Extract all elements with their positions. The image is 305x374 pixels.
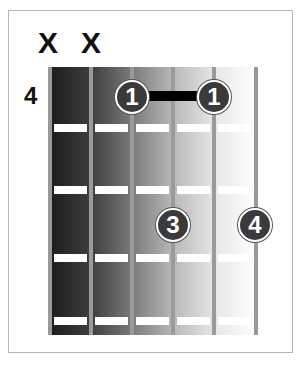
finger-dot: 4 [238, 208, 272, 242]
fret-line [177, 254, 210, 262]
fretboard-column-shade [50, 67, 91, 335]
fret-line [54, 254, 87, 262]
fret-line [218, 124, 252, 132]
string-line [171, 67, 175, 335]
finger-dot: 1 [115, 80, 149, 114]
fret-line [54, 124, 87, 132]
base-fret-label: 4 [24, 84, 37, 108]
fret-line [54, 317, 87, 325]
fret-line [177, 124, 210, 132]
finger-dot: 3 [156, 208, 190, 242]
string-line [254, 67, 258, 335]
fret-line [218, 186, 252, 194]
fret-line [95, 124, 128, 132]
mute-x-icon: X [81, 28, 101, 58]
fret-line [95, 317, 128, 325]
fret-line [136, 186, 169, 194]
fret-line [218, 254, 252, 262]
barre-bar [146, 91, 200, 101]
string-line [48, 67, 52, 335]
fret-line [177, 317, 210, 325]
finger-dot: 1 [197, 80, 231, 114]
string-line [89, 67, 93, 335]
fret-line [218, 317, 252, 325]
fret-line [177, 186, 210, 194]
fret-line [95, 186, 128, 194]
fret-line [136, 254, 169, 262]
fret-line [136, 124, 169, 132]
mute-x-icon: X [38, 28, 58, 58]
fret-line [136, 317, 169, 325]
fret-line [54, 186, 87, 194]
fret-line [95, 254, 128, 262]
